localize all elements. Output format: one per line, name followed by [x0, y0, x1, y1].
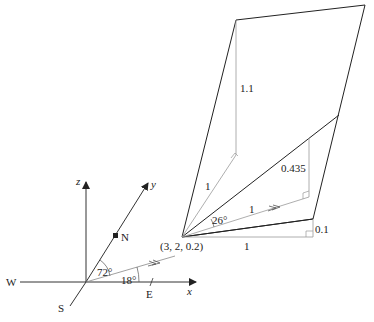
length-slant-label: 1 — [205, 180, 211, 192]
length-1-1-label: 1.1 — [240, 82, 254, 94]
east-label: E — [146, 288, 153, 300]
north-marker — [113, 233, 118, 238]
plane-outline — [182, 5, 365, 237]
vector-geometry-diagram: z y x N S E W 72° 18° 1.1 1 0.435 1 1 0.… — [0, 0, 374, 322]
slant-1 — [182, 155, 236, 237]
point-label: (3, 2, 0.2) — [160, 240, 203, 253]
south-axis — [70, 282, 86, 306]
length-0-435-label: 0.435 — [281, 162, 306, 174]
x-axis-label: x — [186, 285, 192, 297]
y-axis — [86, 183, 148, 282]
y-axis-label: y — [150, 178, 156, 190]
steep-line — [182, 115, 339, 237]
diagram-canvas: z y x N S E W 72° 18° 1.1 1 0.435 1 1 0.… — [0, 0, 374, 322]
angle-18-label: 18° — [121, 274, 136, 286]
angle-26-label: 26° — [212, 214, 227, 226]
south-label: S — [58, 302, 64, 314]
right-angle-bottom — [306, 231, 313, 237]
length-unit-label: 1 — [249, 203, 255, 215]
west-label: W — [6, 276, 17, 288]
angle-72-label: 72° — [97, 266, 112, 278]
plane-figure — [182, 5, 365, 237]
length-base-label: 1 — [244, 240, 250, 252]
angle-arc-18 — [137, 267, 139, 282]
z-axis-label: z — [75, 175, 81, 187]
direction-unit-line — [182, 197, 309, 237]
north-label: N — [121, 231, 129, 243]
length-0-1-label: 0.1 — [315, 223, 329, 235]
